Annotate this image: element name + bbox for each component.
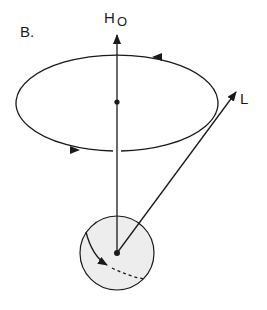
angular-momentum-arrow [117,92,236,253]
orbit-arrow-top-icon [152,53,162,61]
orbit-center-dot [114,99,119,104]
panel-label: B. [20,23,34,40]
vector-label: L [240,90,248,107]
precession-diagram [0,0,267,310]
field-label: H [104,9,115,26]
sphere-center-dot [114,250,120,256]
field-label-subscript: O [117,14,127,29]
